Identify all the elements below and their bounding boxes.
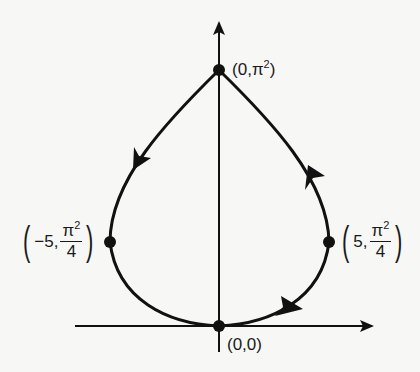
- paren-close: ): [86, 221, 93, 261]
- paren-open: (: [23, 221, 30, 261]
- fraction: π2 4: [60, 222, 82, 261]
- label-y-base: π: [252, 60, 264, 79]
- label-x-value: 0: [238, 60, 247, 79]
- paren-open: (: [342, 221, 349, 261]
- fraction-denominator: 4: [67, 242, 76, 261]
- paren-close: ): [395, 221, 402, 261]
- fraction-numerator: π2: [370, 222, 392, 242]
- fraction-denominator: 4: [376, 242, 385, 261]
- fraction-numerator: π2: [60, 222, 82, 242]
- point-right: [323, 236, 335, 248]
- point-left: [104, 236, 116, 248]
- label-left-point: ( −5, π2 4 ): [20, 221, 97, 261]
- label-top-point: (0,π2): [232, 61, 275, 78]
- point-top: [213, 64, 225, 76]
- curve-segment-origin-right: [219, 242, 329, 326]
- label-right-point: ( 5, π2 4 ): [339, 221, 406, 261]
- diagram-canvas: [0, 0, 420, 372]
- label-x-value: 5,: [353, 233, 367, 250]
- label-origin-point: (0,0): [227, 336, 262, 353]
- paren-close: ): [270, 60, 276, 79]
- label-x-value: −5,: [34, 233, 58, 250]
- curve-segment-top-left: [110, 70, 219, 242]
- fraction: π2 4: [370, 222, 392, 261]
- point-origin: [213, 320, 225, 332]
- curve-segment-left-origin: [110, 242, 219, 326]
- curve-segment-right-top: [219, 70, 329, 242]
- direction-arrow-icon: [133, 147, 151, 170]
